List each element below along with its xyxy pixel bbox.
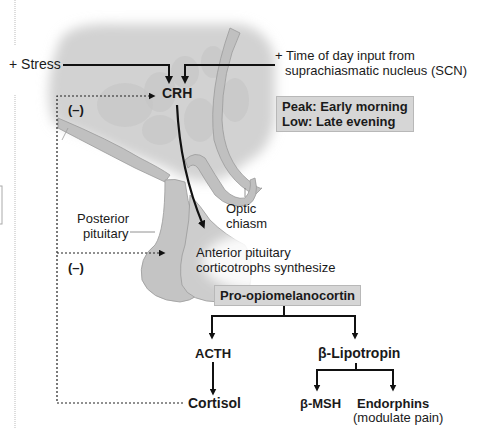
pomc-split-connector: [284, 316, 355, 336]
posterior-pituitary-label-line1: Posterior: [77, 211, 129, 226]
anterior-pituitary-label-line2: corticotrophs synthesize: [196, 260, 335, 275]
feedback-sign-upper: (–): [68, 102, 84, 117]
scn-input-label-line1: + Time of day input from: [275, 48, 415, 63]
stress-input-label: + Stress: [9, 57, 61, 72]
feedback-sign-lower: (–): [68, 260, 84, 275]
lipotropin-label: β-Lipotropin: [318, 346, 400, 361]
endorphins-note: (modulate pain): [353, 410, 443, 425]
optic-chiasm-label-line1: Optic: [226, 201, 256, 216]
lipotropin-split-connector: [317, 363, 356, 388]
circadian-low-text: Low: Late evening: [282, 114, 408, 129]
cortisol-label: Cortisol: [188, 396, 241, 411]
circadian-peak-text: Peak: Early morning: [282, 99, 408, 114]
acth-label: ACTH: [195, 346, 231, 361]
pomc-box: Pro-opiomelanocortin: [214, 285, 361, 306]
lipotropin-split-connector: [356, 370, 393, 388]
msh-label: β-MSH: [300, 396, 341, 411]
pomc-split-connector: [212, 304, 284, 336]
scn-input-label-line2: suprachiasmatic nucleus (SCN): [285, 63, 467, 78]
anterior-pituitary-label-line1: Anterior pituitary: [196, 245, 291, 260]
page-edge-tab: [0, 186, 2, 224]
optic-chiasm-label-line2: chiasm: [226, 216, 267, 231]
posterior-pituitary-label-line2: pituitary: [83, 226, 129, 241]
circadian-rhythm-box: Peak: Early morning Low: Late evening: [276, 96, 414, 132]
endorphins-label: Endorphins: [357, 396, 429, 411]
crh-label: CRH: [162, 86, 192, 101]
